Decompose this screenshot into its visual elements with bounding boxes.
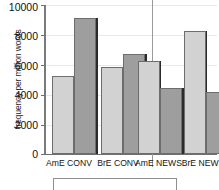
- bar-bre-news-series-1: [184, 31, 206, 154]
- gridline-10000: [45, 5, 217, 6]
- bar-bre-news-series-2: [206, 92, 219, 154]
- x-tick-label-bre-news: BrE NEWS: [177, 158, 219, 168]
- y-tick-mark-0: [41, 154, 45, 155]
- y-tick-label-2000: 2000: [15, 120, 38, 131]
- y-tick-label-6000: 6000: [15, 61, 38, 72]
- y-tick-label-4000: 4000: [15, 90, 38, 101]
- bar-ame-news-series-2: [160, 88, 182, 154]
- plot-area: [44, 5, 217, 155]
- bar-bre-conv-series-1: [101, 67, 123, 154]
- x-tick-label-ame-conv: AmE CONV: [44, 158, 94, 168]
- legend-box: [53, 178, 177, 190]
- bar-chart: frequency per million words 10000 8000 6…: [0, 0, 219, 190]
- y-tick-label-0: 0: [32, 149, 38, 160]
- y-axis-line: [44, 5, 46, 155]
- y-tick-mark-4000: [41, 95, 45, 96]
- y-tick-mark-8000: [41, 35, 45, 36]
- y-tick-mark-6000: [41, 65, 45, 66]
- bar-ame-conv-series-2: [74, 18, 96, 154]
- bar-ame-conv-series-1: [52, 76, 74, 154]
- y-tick-label-10000: 10000: [9, 2, 38, 13]
- y-tick-mark-10000: [41, 5, 45, 6]
- bar-ame-news-series-1: [138, 61, 160, 154]
- x-axis-tick-labels: AmE CONV BrE CONV AmE NEWS BrE NEWS: [44, 158, 219, 174]
- y-tick-label-8000: 8000: [15, 31, 38, 42]
- y-tick-mark-2000: [41, 125, 45, 126]
- y-axis-tick-labels: 10000 8000 6000 4000 2000 0: [0, 0, 41, 190]
